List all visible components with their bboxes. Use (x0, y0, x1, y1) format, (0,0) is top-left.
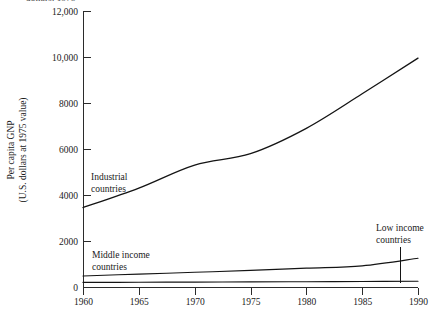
y-tick-label-2000: 2000 (59, 237, 78, 247)
series-line-low-income-countries (83, 281, 418, 282)
axis-lines (84, 11, 419, 288)
y-axis-title-line1: Per capita GNP (6, 120, 16, 179)
x-tick-label-1960: 1960 (74, 297, 93, 307)
x-tick-label-1965: 1965 (130, 297, 149, 307)
y-tick-label-0: 0 (73, 283, 78, 293)
x-tick-label-1990: 1990 (409, 297, 428, 307)
series-line-middle-income-countries (83, 258, 418, 276)
y-tick-label-8000: 8000 (59, 99, 78, 109)
chart-figure: dollars, 1975 Per capita GNP (U.S. dolla… (0, 0, 441, 309)
y-tick-label-12000: 12,000 (52, 7, 78, 17)
series-line-industrial-countries (83, 58, 418, 208)
y-tick-label-6000: 6000 (59, 145, 78, 155)
y-axis-ticks: 12,000 10,000 8000 6000 4000 2000 0 (52, 7, 91, 293)
x-axis-ticks: 1960 1965 1970 1975 1980 1985 1990 (74, 288, 428, 308)
annotation-middle-income-line1: Middle income (92, 250, 150, 260)
annotation-middle-income-countries: Middle income countries (92, 250, 150, 272)
annotation-low-income-line1: Low income (376, 223, 424, 233)
x-tick-label-1975: 1975 (242, 297, 261, 307)
x-tick-label-1970: 1970 (186, 297, 205, 307)
annotation-industrial-countries: Industrial countries (91, 172, 128, 194)
y-axis-title-line2: (U.S. dollars at 1975 value) (18, 97, 29, 202)
x-tick-label-1980: 1980 (297, 297, 316, 307)
clipped-header-text: dollars, 1975 (26, 0, 76, 1)
y-tick-label-4000: 4000 (59, 191, 78, 201)
annotation-middle-income-line2: countries (92, 262, 127, 272)
x-tick-label-1985: 1985 (353, 297, 372, 307)
line-chart-svg: Per capita GNP (U.S. dollars at 1975 val… (0, 0, 441, 309)
annotation-industrial-line1: Industrial (91, 172, 128, 182)
y-tick-label-10000: 10,000 (52, 53, 78, 63)
annotation-low-income-line2: countries (376, 235, 411, 245)
y-axis-title: Per capita GNP (U.S. dollars at 1975 val… (6, 97, 29, 202)
annotation-industrial-line2: countries (91, 184, 126, 194)
annotation-low-income-countries: Low income countries (376, 223, 424, 283)
